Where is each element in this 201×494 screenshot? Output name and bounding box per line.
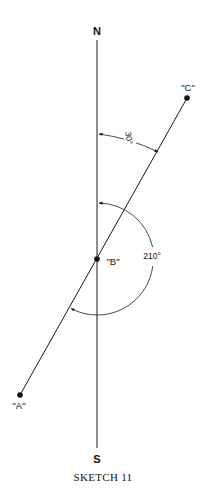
- angle-label-210: 210°: [143, 251, 161, 261]
- point-b-marker: [94, 256, 100, 262]
- point-a-label: "A": [12, 400, 25, 411]
- point-b-label: "B": [106, 256, 119, 267]
- north-label: N: [93, 25, 101, 37]
- south-label: S: [93, 453, 100, 465]
- point-a-marker: [17, 392, 23, 398]
- point-c-label: "C": [181, 82, 195, 93]
- sketch-diagram: N S "C" "B" "A" 30° 210° SKETCH 11: [0, 0, 201, 494]
- point-c-marker: [184, 95, 190, 101]
- angle-label-30: 30°: [123, 131, 135, 145]
- angle-arc-210-lower: [71, 266, 153, 315]
- sketch-caption: SKETCH 11: [74, 471, 133, 483]
- line-a-c: [20, 98, 187, 395]
